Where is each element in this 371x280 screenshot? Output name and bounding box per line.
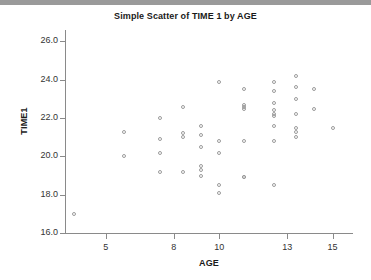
y-axis-tick-label-text: 20.0	[22, 150, 58, 160]
data-point	[199, 124, 203, 128]
data-point	[272, 114, 276, 118]
y-axis-tick	[60, 41, 65, 42]
y-axis-tick	[60, 233, 65, 234]
data-point	[217, 80, 221, 84]
data-point	[217, 151, 221, 155]
data-point	[272, 89, 276, 93]
data-point	[272, 101, 276, 105]
x-axis-title: AGE	[65, 258, 353, 268]
x-axis-tick-label: 5	[91, 242, 121, 252]
y-axis-tick	[60, 195, 65, 196]
y-axis-tick-label-text: 18.0	[22, 189, 58, 199]
x-axis-tick	[333, 234, 334, 239]
data-point	[217, 191, 221, 195]
plot-area	[66, 30, 352, 233]
chart-title: Simple Scatter of TIME 1 by AGE	[0, 11, 371, 21]
data-point	[242, 107, 246, 111]
data-point	[199, 168, 203, 172]
y-axis-tick-label-text: 26.0	[22, 35, 58, 45]
data-point	[272, 124, 276, 128]
x-axis-tick	[287, 234, 288, 239]
data-point	[272, 183, 276, 187]
x-axis-line	[65, 233, 353, 234]
data-point	[272, 139, 276, 143]
data-point	[122, 130, 126, 134]
data-point	[181, 105, 185, 109]
x-axis-tick	[174, 234, 175, 239]
data-point	[199, 174, 203, 178]
y-axis-tick-label-text: 24.0	[22, 74, 58, 84]
x-axis-tick-label: 13	[272, 242, 302, 252]
data-point	[158, 170, 162, 174]
data-point	[272, 80, 276, 84]
scatter-chart: Simple Scatter of TIME 1 by AGE TIME1 16…	[0, 0, 371, 280]
y-axis-tick-label-text: 22.0	[22, 112, 58, 122]
x-axis-tick-label: 15	[318, 242, 348, 252]
y-axis-tick	[60, 156, 65, 157]
x-axis-tick-label: 10	[204, 242, 234, 252]
data-point	[294, 130, 298, 134]
y-axis-tick	[60, 80, 65, 81]
x-axis-tick	[219, 234, 220, 239]
data-point	[158, 151, 162, 155]
y-axis-tick	[60, 118, 65, 119]
y-axis-tick-label-text: 16.0	[22, 227, 58, 237]
x-axis-tick	[106, 234, 107, 239]
data-point	[199, 145, 203, 149]
data-point	[181, 170, 185, 174]
data-point	[72, 212, 76, 216]
data-point	[331, 126, 335, 130]
x-axis-tick-label: 8	[159, 242, 189, 252]
